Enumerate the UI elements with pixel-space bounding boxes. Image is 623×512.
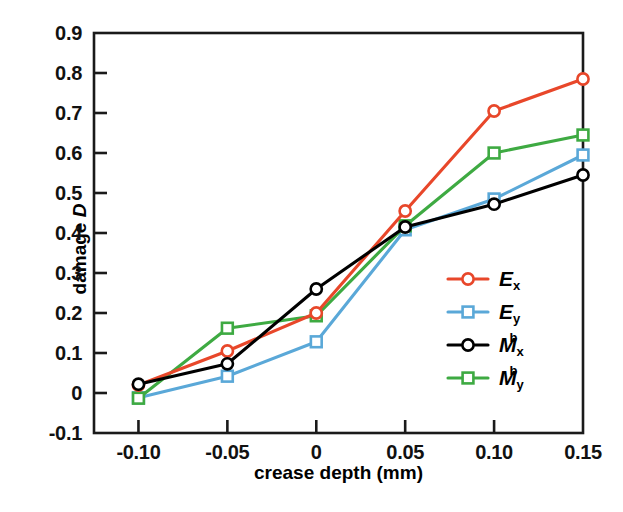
data-point <box>400 205 411 216</box>
y-axis-tick-label: 0.8 <box>0 62 82 85</box>
legend-label: Mbx <box>499 334 532 355</box>
data-point <box>488 199 499 210</box>
data-point <box>222 371 233 382</box>
y-axis-tick-label: 0 <box>0 382 82 405</box>
legend-marker-circle <box>462 339 473 350</box>
y-axis-tick-label: 0.1 <box>0 342 82 365</box>
data-point <box>311 336 322 347</box>
x-axis-tick-label: 0.05 <box>386 441 424 464</box>
legend-item-M_y_b[interactable]: Mby <box>446 361 566 394</box>
data-point <box>222 323 233 334</box>
y-axis-tick-label: 0.7 <box>0 102 82 125</box>
x-axis-tick-label: -0.10 <box>116 441 160 464</box>
legend-marker-square <box>463 306 474 317</box>
data-point <box>577 169 588 180</box>
data-point <box>578 130 589 141</box>
y-axis-tick-label: 0.3 <box>0 262 82 285</box>
y-axis-tick-label: 0.4 <box>0 222 82 245</box>
data-point <box>488 105 499 116</box>
legend-label: Mby <box>499 367 532 388</box>
chart-figure: damage D crease depth (mm) ExEyMbxMby 0.… <box>0 0 623 512</box>
data-point <box>222 345 233 356</box>
legend-item-M_x_b[interactable]: Mbx <box>446 328 566 361</box>
legend-swatch-square <box>446 368 490 388</box>
legend-item-E_y[interactable]: Ey <box>446 295 566 328</box>
y-axis-tick-label: -0.1 <box>0 422 82 445</box>
x-axis-tick-label: -0.05 <box>205 441 249 464</box>
y-axis-tick-label: 0.2 <box>0 302 82 325</box>
data-point <box>133 379 144 390</box>
y-axis-tick-label: 0.5 <box>0 182 82 205</box>
legend-swatch-square <box>446 302 490 322</box>
legend-label: Ex <box>499 268 520 289</box>
legend-item-E_x[interactable]: Ex <box>446 262 566 295</box>
legend-swatch-circle <box>446 335 490 355</box>
legend-label: Ey <box>499 301 520 322</box>
x-axis-tick-label: 0 <box>311 441 322 464</box>
y-axis-tick-label: 0.6 <box>0 142 82 165</box>
y-axis-label-variable: D <box>69 204 90 218</box>
data-point <box>400 221 411 232</box>
chart-legend: ExEyMbxMby <box>446 262 566 394</box>
data-point <box>311 307 322 318</box>
data-point <box>133 393 144 404</box>
legend-marker-square <box>463 372 474 383</box>
data-point <box>222 358 233 369</box>
legend-marker-circle <box>462 273 473 284</box>
y-axis-tick-label: 0.9 <box>0 22 82 45</box>
x-axis-tick-label: 0.10 <box>475 441 513 464</box>
data-point <box>311 283 322 294</box>
plot-canvas <box>0 0 623 512</box>
legend-swatch-circle <box>446 269 490 289</box>
data-point <box>578 150 589 161</box>
x-axis-label: crease depth (mm) <box>94 462 583 484</box>
x-axis-tick-label: 0.15 <box>564 441 602 464</box>
data-point <box>577 73 588 84</box>
data-point <box>489 148 500 159</box>
